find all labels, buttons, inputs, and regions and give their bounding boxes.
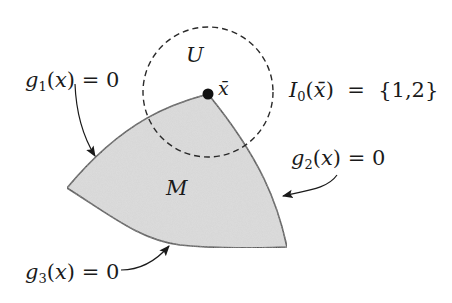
g3-sub: 3 — [38, 271, 46, 286]
arrow-g3 — [121, 246, 169, 270]
g3-rhs: 0 — [106, 260, 119, 284]
g2-arg: x — [321, 146, 333, 170]
neighborhood-u-label: U — [186, 45, 204, 66]
active-set-value: {1,2} — [378, 78, 438, 102]
region-m — [67, 94, 287, 248]
active-set-arg: x̄ — [314, 78, 326, 102]
constraint-g2-label: g2(x) = 0 — [291, 148, 385, 171]
constraint-g1-label: g1(x) = 0 — [25, 70, 119, 93]
region-m-label: M — [166, 178, 188, 199]
active-set-sub: 0 — [297, 89, 305, 104]
constraint-g3-label: g3(x) = 0 — [25, 262, 119, 285]
arrow-g1 — [75, 84, 95, 156]
diagram-canvas: U x̄ M g1(x) = 0 I0(x̄) = {1,2} g2(x) = … — [0, 0, 452, 303]
g1-sub: 1 — [38, 79, 46, 94]
active-set-label: I0(x̄) = {1,2} — [289, 80, 438, 103]
g1-arg: x — [55, 68, 67, 92]
g3-arg: x — [55, 260, 67, 284]
active-set-equals: = — [347, 78, 365, 102]
point-x-bar — [203, 89, 214, 100]
arrow-g2 — [283, 175, 337, 196]
g2-rhs: 0 — [372, 146, 385, 170]
g3-func: g — [25, 260, 38, 284]
g1-rhs: 0 — [106, 68, 119, 92]
g2-func: g — [291, 146, 304, 170]
g2-sub: 2 — [304, 157, 312, 172]
g1-func: g — [25, 68, 38, 92]
point-x-bar-label: x̄ — [218, 79, 229, 98]
